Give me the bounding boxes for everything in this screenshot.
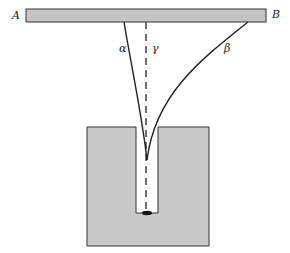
- slot-contact-point: [142, 211, 152, 215]
- label-gamma: γ: [152, 42, 159, 55]
- diagram-canvas: A B α γ β: [0, 0, 290, 253]
- label-beta: β: [223, 42, 230, 55]
- label-a: A: [11, 9, 20, 22]
- bar-ab: [26, 9, 266, 22]
- label-b: B: [271, 8, 280, 21]
- label-alpha: α: [119, 42, 127, 55]
- slotted-block: [87, 127, 209, 246]
